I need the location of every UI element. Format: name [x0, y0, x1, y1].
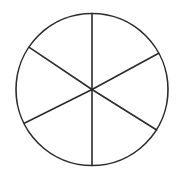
sector-diagram [0, 0, 190, 173]
spokes-group [24, 14, 158, 166]
spoke-lower-right [92, 90, 157, 131]
spoke-upper-right [92, 53, 159, 89]
spoke-lower-left [24, 90, 92, 124]
spoke-upper-left [29, 47, 92, 89]
